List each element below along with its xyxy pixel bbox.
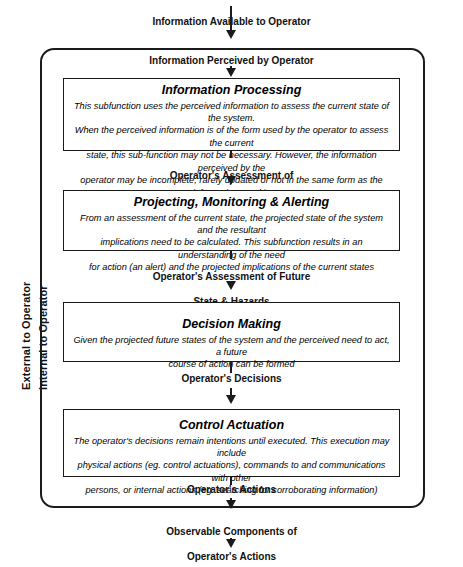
box-title-projecting-monitoring-alerting: Projecting, Monitoring & Alerting bbox=[72, 195, 391, 211]
box-control-actuation: Control Actuation The operator's decisio… bbox=[63, 409, 400, 477]
diagram-canvas: External to Operator Internal to Operato… bbox=[0, 0, 463, 567]
box-desc-line: From an assessment of the current state,… bbox=[72, 212, 391, 237]
box-title-information-processing: Information Processing bbox=[72, 83, 391, 99]
box-desc-line: The operator's decisions remain intentio… bbox=[72, 435, 391, 460]
box-information-processing: Information Processing This subfunction … bbox=[63, 78, 400, 151]
flow-label-line: Observable Components of bbox=[0, 526, 463, 539]
flow-label-operator-decisions: Operator's Decisions bbox=[0, 373, 463, 386]
box-decision-making: Decision Making Given the projected futu… bbox=[63, 302, 400, 362]
box-desc-line: This subfunction uses the perceived info… bbox=[72, 100, 391, 125]
box-desc-line: When the perceived information is of the… bbox=[72, 124, 391, 149]
box-title-decision-making: Decision Making bbox=[72, 317, 391, 333]
box-desc-line: Given the projected future states of the… bbox=[72, 334, 391, 359]
flow-label-line: Operator's Actions bbox=[0, 551, 463, 564]
box-title-control-actuation: Control Actuation bbox=[72, 418, 391, 434]
flow-label-operator-actions: Operator's Actions bbox=[0, 484, 463, 497]
box-projecting-monitoring-alerting: Projecting, Monitoring & Alerting From a… bbox=[63, 190, 400, 251]
